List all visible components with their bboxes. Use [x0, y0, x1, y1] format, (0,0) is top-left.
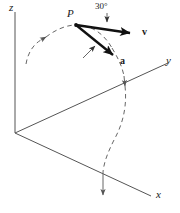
angle-leader-group — [83, 13, 107, 58]
trajectory-segment-lower-left — [26, 40, 41, 64]
figure-canvas: z y x P 30° v a — [0, 0, 180, 213]
y-axis-line — [15, 63, 168, 133]
acceleration-vector-label: a — [120, 56, 125, 66]
velocity-vector-label: v — [142, 27, 147, 37]
z-axis-label: z — [9, 2, 13, 13]
angle-indicator-arrow — [83, 46, 95, 58]
point-p-label: P — [67, 8, 74, 19]
y-axis-label: y — [166, 55, 171, 66]
axis-group — [15, 12, 168, 196]
trajectory-segment-descending-lower — [103, 86, 126, 172]
trajectory-group — [26, 25, 126, 195]
trajectory-arrow-descending — [124, 76, 125, 86]
x-axis-label: x — [156, 189, 161, 200]
x-axis-line — [15, 133, 151, 196]
vector-group — [76, 25, 130, 55]
trajectory-arrow-ascending — [41, 37, 46, 40]
angle-label: 30° — [95, 2, 108, 11]
diagram-svg — [0, 0, 180, 213]
